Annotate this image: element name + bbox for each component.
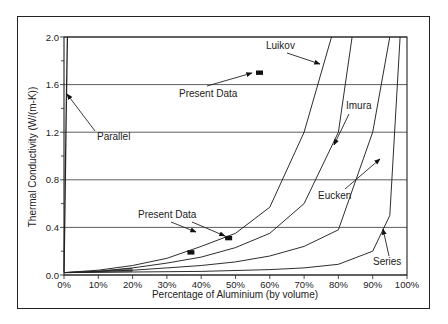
x-tick-label: 10%	[89, 279, 109, 290]
annotation-arrow	[287, 53, 320, 64]
y-tick-label: 2.0	[46, 32, 59, 43]
chart: 0.00.40.81.21.62.00%10%20%30%40%50%60%70…	[0, 0, 448, 324]
x-tick-label: 0%	[57, 279, 71, 290]
annotation-arrow	[383, 229, 389, 256]
y-tick-label: 0.4	[46, 222, 59, 233]
annotation-luikov: Luikov	[266, 40, 295, 51]
annotation-eucken: Eucken	[318, 190, 351, 201]
y-tick-label: 1.6	[46, 79, 59, 90]
x-tick-label: 90%	[363, 279, 383, 290]
annotation-arrow	[334, 114, 349, 145]
y-axis-title: Thermal Conductivity (W/(m-K))	[27, 87, 38, 228]
annotation-arrow	[207, 73, 252, 86]
gridlines	[64, 37, 407, 275]
annotation-imura: Imura	[346, 100, 372, 111]
curve-imura	[64, 37, 352, 273]
present-data-point	[256, 71, 263, 75]
annotation-series: Series	[373, 256, 401, 267]
x-tick-label: 20%	[123, 279, 143, 290]
annotation-present-data-upper: Present Data	[179, 88, 238, 99]
curve-luikov	[64, 37, 332, 273]
present-data-point	[225, 236, 232, 240]
x-tick-label: 80%	[329, 279, 349, 290]
x-tick-label: 100%	[395, 279, 420, 290]
annotation-arrow	[345, 159, 380, 189]
annotation-present-data-lower: Present Data	[138, 209, 197, 220]
y-tick-label: 0.8	[46, 174, 59, 185]
plot-area	[64, 37, 407, 275]
y-tick-label: 1.2	[46, 127, 59, 138]
annotations: ParallelLuikovPresent DataImuraEuckenSer…	[67, 40, 401, 267]
annotation-arrow	[192, 222, 225, 236]
present-data-point	[187, 250, 194, 254]
annotation-arrow	[67, 94, 95, 131]
axes: 0.00.40.81.21.62.00%10%20%30%40%50%60%70…	[46, 32, 420, 291]
annotation-parallel: Parallel	[97, 131, 130, 142]
x-axis-title: Percentage of Aluminium (by volume)	[152, 289, 318, 300]
